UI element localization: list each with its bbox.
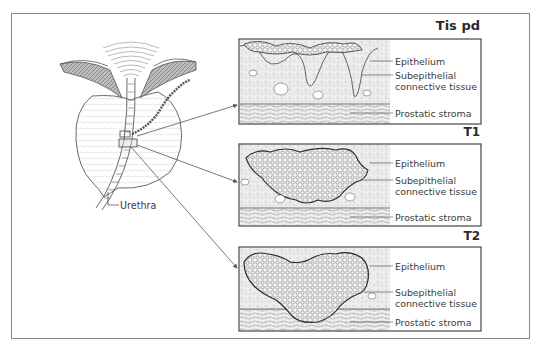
bladder-wall-right — [140, 61, 196, 98]
detail-box-large — [119, 139, 137, 147]
label-prostatic-stroma: Prostatic stroma — [395, 212, 471, 223]
stage-title-tis-pd: Tis pd — [420, 18, 480, 33]
label-connective-tissue: connective tissue — [395, 81, 477, 92]
label-subepithelial: Subepithelial — [395, 287, 456, 298]
label-subepithelial: Subepithelial — [395, 175, 456, 186]
label-prostatic-stroma: Prostatic stroma — [395, 317, 471, 328]
label-connective-tissue: connective tissue — [395, 298, 477, 309]
prostate-drawing — [60, 42, 196, 210]
label-epithelium: Epithelium — [395, 158, 445, 169]
label-epithelium: Epithelium — [395, 261, 445, 272]
label-connective-tissue: connective tissue — [395, 186, 477, 197]
stage-title-t1: T1 — [420, 125, 480, 139]
bladder-wall-left — [60, 62, 122, 98]
label-epithelium: Epithelium — [395, 56, 445, 67]
label-subepithelial: Subepithelial — [395, 70, 456, 81]
label-prostatic-stroma: Prostatic stroma — [395, 108, 471, 119]
urethra-label: Urethra — [120, 200, 156, 211]
stage-title-t2: T2 — [420, 229, 480, 243]
bladder-neck-rings — [103, 42, 159, 76]
